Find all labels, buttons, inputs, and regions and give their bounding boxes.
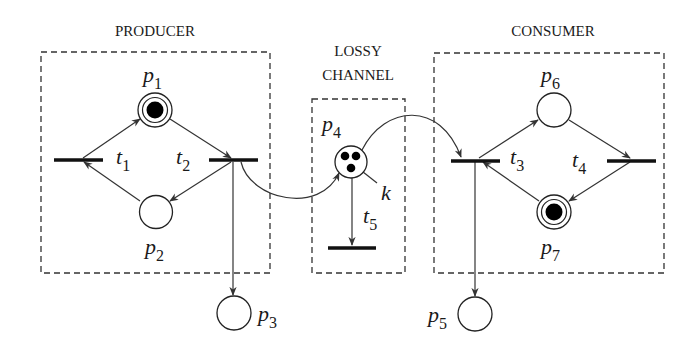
- arc-p6-t4: [569, 120, 630, 158]
- label-p3: p3: [256, 301, 277, 331]
- lossy-channel-title-line1: LOSSY: [334, 43, 382, 59]
- producer-title: PRODUCER: [115, 23, 195, 39]
- label-t5: t5: [363, 203, 377, 233]
- lossy-channel-title-line2: CHANNEL: [322, 67, 394, 83]
- place-p2[interactable]: [140, 196, 173, 229]
- arc-p2-t1: [84, 162, 140, 201]
- arc-p4-t3: [362, 115, 461, 157]
- place-p1[interactable]: [138, 93, 172, 127]
- consumer-title: CONSUMER: [511, 23, 594, 39]
- token: [147, 102, 164, 119]
- label-t1: t1: [116, 144, 130, 174]
- label-p7: p7: [539, 234, 560, 264]
- label-p4: p4: [320, 111, 341, 141]
- arc-t1-p1: [83, 119, 140, 158]
- arc-t3-p6: [479, 120, 538, 158]
- token: [352, 152, 361, 161]
- place-p3[interactable]: [217, 296, 251, 330]
- label-t3: t3: [510, 144, 524, 174]
- arc-t2-p4: [241, 162, 339, 198]
- place-p6[interactable]: [537, 93, 571, 127]
- place-p4[interactable]: [335, 146, 367, 178]
- petri-net-diagram: PRODUCER LOSSY CHANNEL CONSUMER: [0, 0, 699, 356]
- label-p5: p5: [426, 302, 447, 332]
- place-p5[interactable]: [458, 297, 492, 331]
- label-t2: t2: [176, 144, 190, 174]
- token: [341, 152, 350, 161]
- label-p1: p1: [141, 62, 162, 92]
- label-capacity-k: k: [381, 180, 392, 205]
- place-p7[interactable]: [537, 195, 571, 229]
- token: [347, 164, 356, 173]
- label-p2: p2: [143, 234, 164, 264]
- token: [546, 204, 563, 221]
- label-t4: t4: [572, 147, 586, 177]
- label-p6: p6: [539, 62, 560, 92]
